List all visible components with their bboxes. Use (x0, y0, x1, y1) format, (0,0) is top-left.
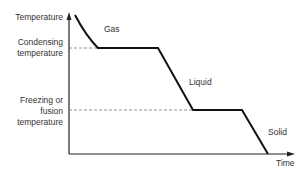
freezing-label-line1: Freezing or (20, 95, 63, 105)
condensing-label-line1: Condensing (18, 37, 64, 47)
y-axis-label: Temperature (15, 12, 63, 22)
solid-label: Solid (268, 127, 287, 137)
condensing-label-line2: temperature (17, 48, 63, 58)
freezing-label-line3: temperature (17, 117, 63, 127)
freezing-label-line2: fusion (40, 106, 63, 116)
x-axis-arrow-icon (287, 152, 295, 157)
x-axis-label: Time (276, 158, 295, 168)
cooling-curve (75, 15, 268, 154)
gas-label: Gas (104, 24, 120, 34)
liquid-label: Liquid (189, 77, 212, 87)
cooling-curve-diagram: Temperature Condensing temperature Freez… (0, 0, 305, 176)
y-axis-arrow-icon (67, 12, 72, 20)
